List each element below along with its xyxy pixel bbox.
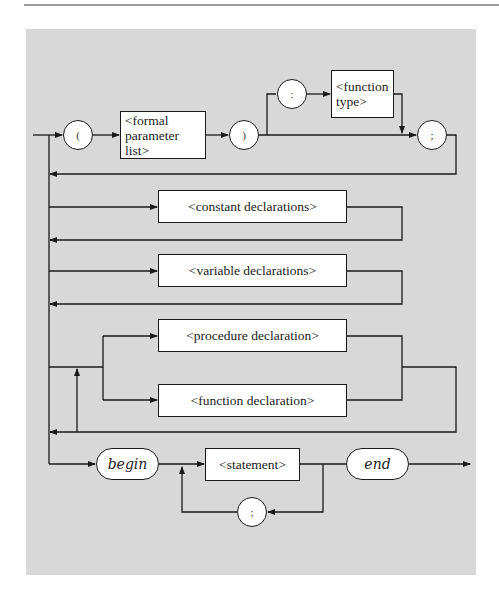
function-declaration-box: <function declaration> <box>158 384 347 417</box>
semicolon-terminal: ; <box>417 120 447 150</box>
open-paren-terminal: ( <box>63 120 93 150</box>
open-paren-label: ( <box>76 129 80 141</box>
semicolon-label: ; <box>430 129 433 141</box>
variable-declarations-box: <variable declarations> <box>158 254 347 287</box>
formal-parameter-list-line1: <formal <box>125 113 169 128</box>
colon-terminal: : <box>277 79 307 109</box>
variable-declarations-label: <variable declarations> <box>189 263 316 278</box>
close-paren-label: ) <box>242 129 246 141</box>
statement-label: <statement> <box>219 457 286 472</box>
constant-declarations-label: <constant declarations> <box>188 199 317 214</box>
function-type-box: <function type> <box>331 70 394 118</box>
formal-parameter-list-box: <formal parameter list> <box>120 111 206 159</box>
begin-terminal: begin <box>96 448 159 480</box>
function-type-line1: <function <box>336 79 389 94</box>
statement-separator-terminal: ; <box>237 497 267 527</box>
constant-declarations-box: <constant declarations> <box>158 190 347 223</box>
formal-parameter-list-line2: parameter list> <box>125 128 205 158</box>
end-label: end <box>364 456 390 472</box>
begin-label: begin <box>108 456 148 472</box>
end-terminal: end <box>346 448 409 480</box>
function-declaration-label: <function declaration> <box>191 393 315 408</box>
statement-separator-label: ; <box>250 506 253 518</box>
colon-label: : <box>290 88 293 100</box>
statement-box: <statement> <box>205 448 300 481</box>
close-paren-terminal: ) <box>229 120 259 150</box>
function-type-line2: type> <box>336 94 367 109</box>
procedure-declaration-box: <procedure declaration> <box>158 319 347 352</box>
procedure-declaration-label: <procedure declaration> <box>186 328 319 343</box>
